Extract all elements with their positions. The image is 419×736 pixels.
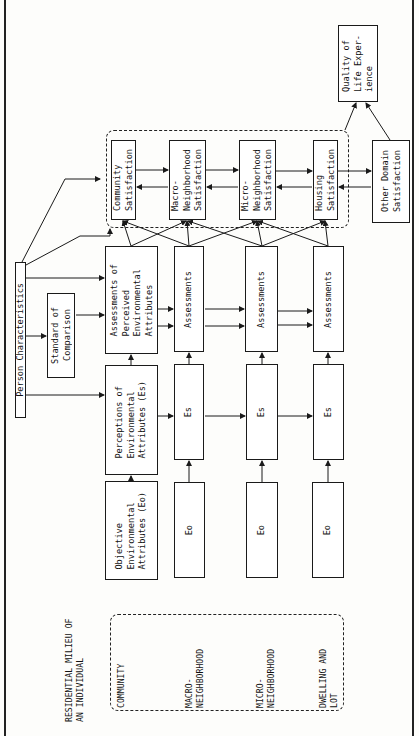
macro-satisfaction-label: Macro- Neighborhood Satisfaction bbox=[170, 149, 205, 211]
eo-label: Eo bbox=[184, 525, 196, 535]
assessments-label: Assessments bbox=[256, 271, 268, 328]
quality-of-life-box: Quality of Life Exper- ience bbox=[338, 25, 378, 102]
residential-levels-group bbox=[110, 614, 344, 711]
housing-satisfaction-box: Housing Satisfaction bbox=[313, 140, 338, 220]
micro-neighborhood-satisfaction-box: Micro- Neighborhood Satisfaction bbox=[239, 140, 276, 220]
assessments-perceived-box: Assessments of Perceived Environmental A… bbox=[105, 246, 158, 354]
es-box-dwelling: Es bbox=[313, 364, 344, 460]
es-label: Es bbox=[323, 407, 335, 417]
es-label: Es bbox=[256, 407, 268, 417]
objective-attributes-label: Objective Environmental Attributes (Eo) bbox=[114, 492, 149, 570]
level-micro-neighborhood: MICRO- NEIGHBORHOOD bbox=[255, 622, 277, 708]
eo-box-micro: Eo bbox=[246, 482, 278, 578]
level-dwelling-and-lot: DWELLING AND LOT bbox=[318, 622, 340, 708]
macro-neighborhood-satisfaction-box: Macro- Neighborhood Satisfaction bbox=[169, 140, 206, 220]
perceptions-box: Perceptions of Environmental Attributes … bbox=[105, 365, 158, 475]
community-satisfaction-box: Community Satisfaction bbox=[111, 140, 136, 220]
eo-label: Eo bbox=[322, 525, 334, 535]
perceptions-label: Perceptions of Environmental Attributes … bbox=[114, 381, 149, 459]
housing-satisfaction-label: Housing Satisfaction bbox=[314, 149, 337, 211]
other-domain-satisfaction-box: Other Domain Satisfaction bbox=[372, 140, 410, 223]
person-characteristics-label: Person Characteristics bbox=[15, 283, 27, 397]
assessments-box-macro: Assessments bbox=[174, 246, 204, 352]
quality-of-life-label: Quality of Life Exper- ience bbox=[341, 35, 376, 92]
eo-label: Eo bbox=[256, 525, 268, 535]
standard-of-comparison-box: Standard of Comparison bbox=[47, 293, 75, 378]
micro-satisfaction-label: Micro- Neighborhood Satisfaction bbox=[240, 149, 275, 211]
level-macro-neighborhood: MACRO- NEIGHBORHOOD bbox=[184, 622, 206, 708]
other-domain-label: Other Domain Satisfaction bbox=[380, 150, 403, 212]
level-community: COMMUNITY bbox=[116, 622, 127, 708]
diagram-canvas: RESIDENTIAL MILIEU OF AN INDIVIDUAL COMM… bbox=[0, 0, 419, 736]
eo-box-macro: Eo bbox=[174, 482, 205, 578]
community-satisfaction-label: Community Satisfaction bbox=[112, 149, 135, 211]
es-box-macro: Es bbox=[174, 364, 204, 460]
es-label: Es bbox=[183, 407, 195, 417]
right-rule bbox=[412, 0, 414, 736]
residential-milieu-title: RESIDENTIAL MILIEU OF AN INDIVIDUAL bbox=[64, 582, 86, 722]
assessments-label: Assessments bbox=[183, 271, 195, 328]
assessments-box-micro: Assessments bbox=[245, 246, 278, 352]
standard-of-comparison-label: Standard of Comparison bbox=[50, 307, 73, 364]
person-characteristics-box: Person Characteristics bbox=[15, 262, 26, 418]
eo-box-dwelling: Eo bbox=[312, 482, 344, 578]
assessments-label: Assessments bbox=[323, 271, 335, 328]
assessments-box-dwelling: Assessments bbox=[313, 246, 344, 352]
left-rule bbox=[4, 0, 6, 736]
objective-attributes-box: Objective Environmental Attributes (Eo) bbox=[105, 481, 158, 580]
assessments-perceived-label: Assessments of Perceived Environmental A… bbox=[109, 264, 155, 336]
es-box-micro: Es bbox=[246, 364, 278, 460]
